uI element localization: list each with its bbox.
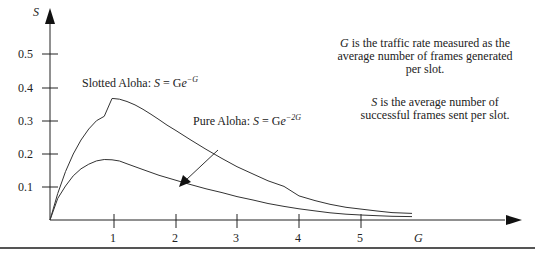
x-tick-label: 2	[172, 231, 178, 245]
x-tick-label: 1	[110, 231, 116, 245]
y-tick-label: 0.1	[18, 180, 33, 194]
pure-aloha-curve	[50, 160, 412, 221]
x-axis-arrow-icon	[506, 215, 522, 225]
y-axis-arrow-icon	[45, 8, 55, 24]
s-definition-note: S is the average number of successful fr…	[350, 96, 520, 122]
x-axis-label: G	[414, 231, 423, 245]
x-tick-label: 5	[357, 231, 363, 245]
g-variable: G	[340, 36, 349, 50]
y-tick-label: 0.3	[18, 114, 33, 128]
y-tick-label: 0.5	[18, 47, 33, 61]
x-tick-label: 4	[295, 231, 301, 245]
g-definition-note: G is the traffic rate measured as the av…	[330, 37, 520, 76]
x-ticks	[114, 214, 361, 228]
g-note-line-3: per slot.	[330, 63, 520, 76]
s-note-line-2: successful frames sent per slot.	[350, 109, 520, 122]
pure-aloha-pointer	[186, 150, 218, 180]
y-tick-label: 0.2	[18, 147, 33, 161]
slotted-aloha-label: Slotted Aloha: S = Ge−G	[82, 75, 198, 90]
y-axis-label: S	[33, 5, 39, 19]
x-tick-label: 3	[233, 231, 239, 245]
g-note-line-1: is the traffic rate measured as the	[349, 36, 510, 50]
bottom-rule	[0, 247, 535, 249]
s-note-line-1: is the average number of	[377, 95, 499, 109]
pure-aloha-label: Pure Aloha: S = Ge−2G	[193, 113, 301, 128]
y-tick-label: 0.4	[18, 81, 33, 95]
